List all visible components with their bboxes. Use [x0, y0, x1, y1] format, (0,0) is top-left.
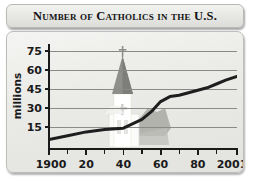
chart-figure: Number of Catholics in the U.S.	[0, 0, 255, 178]
y-tick-label: 60	[27, 64, 43, 77]
page-title: Number of Catholics in the U.S.	[33, 10, 217, 23]
y-tick-label: 45	[27, 83, 42, 96]
y-tick-label: 15	[27, 121, 42, 134]
y-tick-label: 75	[27, 45, 42, 58]
x-tick-label: 60	[153, 158, 169, 171]
y-tick-label: 30	[27, 102, 43, 115]
x-tick-label: 20	[79, 158, 95, 171]
x-tick-label: 80	[190, 158, 206, 171]
chart-panel: 75 60 45 30 15 1900 20 40 60 80 2001 mil…	[6, 31, 244, 173]
line-chart-plot: 75 60 45 30 15 1900 20 40 60 80 2001 mil…	[7, 32, 244, 173]
x-tick-label: 40	[116, 158, 132, 171]
y-axis-tick-labels: 75 60 45 30 15	[27, 45, 43, 134]
chart-title-bar: Number of Catholics in the U.S.	[6, 4, 244, 28]
x-tick-label: 2001	[217, 158, 244, 171]
church-illustration-icon	[105, 46, 171, 147]
x-tick-label: 1900	[36, 158, 67, 171]
x-axis-tick-labels: 1900 20 40 60 80 2001	[36, 158, 244, 171]
y-axis-title: millions	[11, 73, 23, 119]
